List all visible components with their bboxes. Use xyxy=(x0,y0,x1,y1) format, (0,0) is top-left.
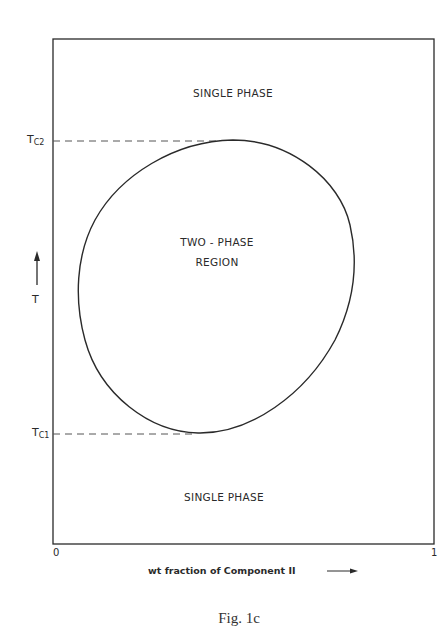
tc2-label-sub: C2 xyxy=(34,138,45,147)
tc2-label: TC2 xyxy=(27,133,44,147)
x-tick-1: 1 xyxy=(431,547,437,558)
region-label-two-phase-line2: REGION xyxy=(195,256,238,268)
right-arrow-head-icon xyxy=(350,569,358,574)
phase-diagram-figure: SINGLE PHASE TWO - PHASE REGION SINGLE P… xyxy=(0,0,447,637)
x-tick-0: 0 xyxy=(53,547,59,558)
region-label-lower-single-phase: SINGLE PHASE xyxy=(184,491,264,503)
tc2-label-main: T xyxy=(27,133,34,146)
y-axis-label: T xyxy=(32,293,39,306)
up-arrow-head-icon xyxy=(34,251,40,261)
plot-frame xyxy=(53,39,434,544)
tc1-label-main: T xyxy=(32,426,39,439)
coexistence-curve xyxy=(78,140,354,433)
figure-caption: Fig. 1c xyxy=(218,610,260,627)
region-label-upper-single-phase: SINGLE PHASE xyxy=(193,87,273,99)
region-label-two-phase-line1: TWO - PHASE xyxy=(180,236,254,248)
tc1-label: TC1 xyxy=(32,426,49,440)
x-axis-label: wt fraction of Component II xyxy=(148,565,295,576)
tc1-label-sub: C1 xyxy=(39,431,50,440)
